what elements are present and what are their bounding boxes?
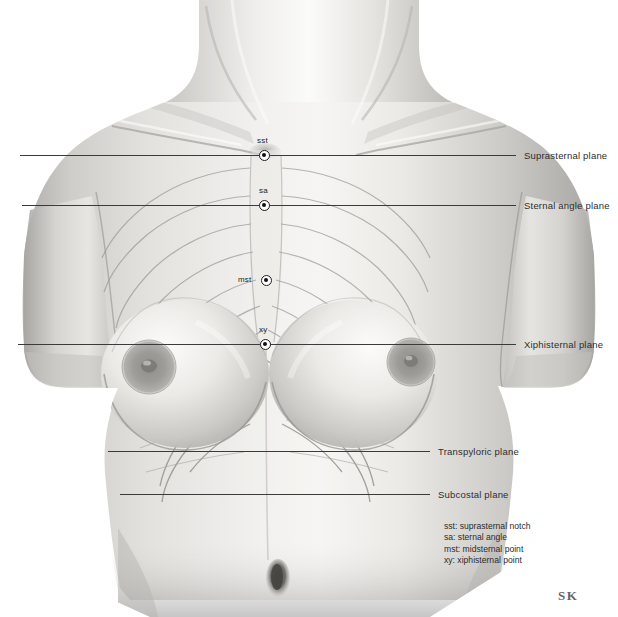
landmark-label-xy: xy	[259, 325, 267, 334]
landmark-marker-sa	[259, 200, 270, 211]
legend-line-mst: mst: midsternal point	[444, 544, 530, 555]
landmark-marker-xy	[260, 339, 271, 350]
legend-line-sa: sa: sternal angle	[444, 532, 530, 543]
landmark-marker-sst	[259, 150, 270, 161]
neck	[166, 0, 452, 102]
plane-line-transpyloric	[108, 451, 430, 452]
legend-line-sst: sst: suprasternal notch	[444, 521, 530, 532]
landmark-label-sst: sst	[257, 136, 268, 145]
abbreviation-legend: sst: suprasternal notch sa: sternal angl…	[444, 521, 530, 567]
plane-label-transpyloric: Transpyloric plane	[438, 446, 519, 457]
plane-line-subcostal	[120, 494, 430, 495]
right-nipple-highlight	[406, 356, 413, 361]
legend-line-xy: xy: xiphisternal point	[444, 555, 530, 566]
plane-label-sternal-angle: Sternal angle plane	[524, 200, 610, 211]
landmark-marker-mst	[261, 275, 272, 286]
left-nipple-highlight	[143, 360, 151, 365]
plane-label-suprasternal: Suprasternal plane	[524, 150, 607, 161]
landmark-label-sa: sa	[259, 186, 268, 195]
artist-signature: SK	[558, 588, 578, 604]
plane-label-xiphisternal: Xiphisternal plane	[524, 339, 603, 350]
landmark-label-mst: mst	[238, 275, 252, 284]
plane-label-subcostal: Subcostal plane	[438, 489, 509, 500]
left-arm-end	[26, 352, 114, 388]
right-arm-end	[504, 352, 592, 388]
